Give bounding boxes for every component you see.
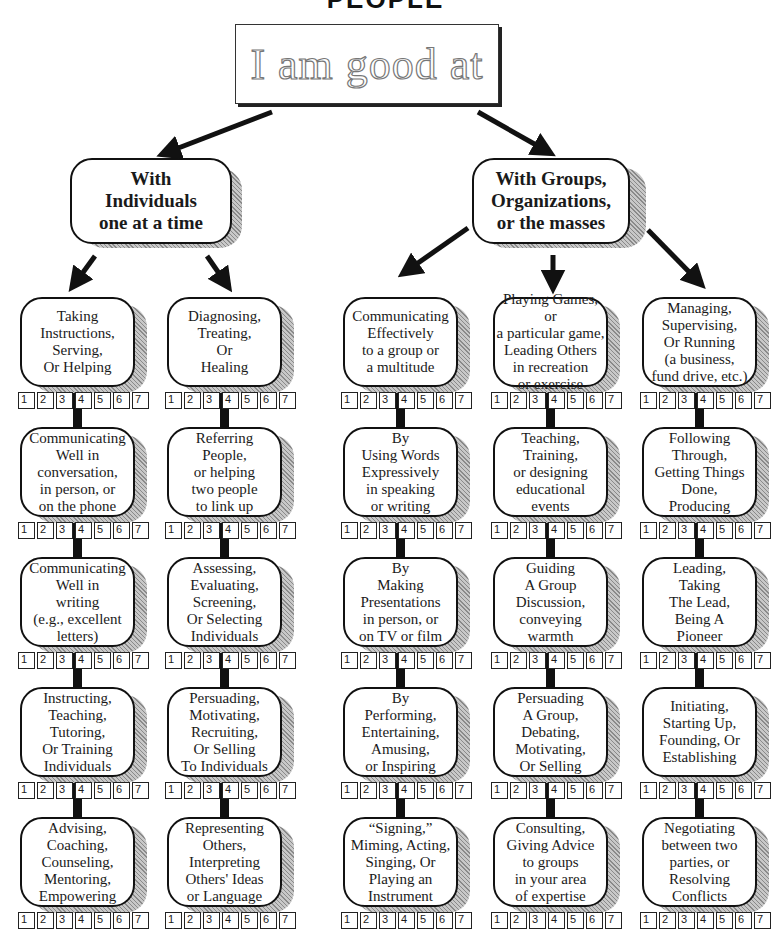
rating-option-6[interactable]: 6 [735,912,752,929]
rating-option-5[interactable]: 5 [417,522,434,539]
rating-option-1[interactable]: 1 [165,522,182,539]
rating-option-7[interactable]: 7 [754,392,771,409]
rating-option-1[interactable]: 1 [491,652,508,669]
rating-option-3[interactable]: 3 [56,652,73,669]
rating-option-3[interactable]: 3 [678,912,695,929]
rating-option-4[interactable]: 4 [222,782,239,799]
rating-option-5[interactable]: 5 [417,912,434,929]
rating-option-1[interactable]: 1 [640,522,657,539]
rating-option-2[interactable]: 2 [659,912,676,929]
rating-option-4[interactable]: 4 [222,652,239,669]
rating-option-2[interactable]: 2 [184,392,201,409]
rating-option-1[interactable]: 1 [165,392,182,409]
rating-option-2[interactable]: 2 [510,392,527,409]
rating-option-2[interactable]: 2 [360,522,377,539]
rating-option-3[interactable]: 3 [379,652,396,669]
rating-option-5[interactable]: 5 [417,392,434,409]
rating-option-7[interactable]: 7 [279,912,296,929]
rating-option-2[interactable]: 2 [37,522,54,539]
rating-option-3[interactable]: 3 [529,392,546,409]
rating-option-6[interactable]: 6 [735,782,752,799]
rating-option-7[interactable]: 7 [279,782,296,799]
rating-option-5[interactable]: 5 [94,522,111,539]
rating-option-7[interactable]: 7 [455,522,472,539]
rating-option-1[interactable]: 1 [165,782,182,799]
rating-option-2[interactable]: 2 [510,912,527,929]
rating-option-3[interactable]: 3 [379,392,396,409]
rating-option-1[interactable]: 1 [640,912,657,929]
rating-option-4[interactable]: 4 [398,522,415,539]
rating-option-2[interactable]: 2 [184,652,201,669]
rating-option-4[interactable]: 4 [548,392,565,409]
rating-option-6[interactable]: 6 [436,392,453,409]
rating-option-7[interactable]: 7 [605,392,622,409]
rating-option-4[interactable]: 4 [75,522,92,539]
rating-option-7[interactable]: 7 [132,392,149,409]
rating-option-6[interactable]: 6 [436,912,453,929]
rating-option-3[interactable]: 3 [379,912,396,929]
rating-option-5[interactable]: 5 [567,522,584,539]
rating-option-5[interactable]: 5 [567,912,584,929]
rating-option-1[interactable]: 1 [491,392,508,409]
rating-option-4[interactable]: 4 [697,912,714,929]
rating-option-2[interactable]: 2 [37,782,54,799]
rating-option-6[interactable]: 6 [113,392,130,409]
rating-option-1[interactable]: 1 [341,522,358,539]
rating-option-2[interactable]: 2 [37,652,54,669]
rating-option-4[interactable]: 4 [548,522,565,539]
rating-option-1[interactable]: 1 [341,652,358,669]
rating-option-5[interactable]: 5 [716,522,733,539]
rating-option-7[interactable]: 7 [754,912,771,929]
rating-option-2[interactable]: 2 [659,652,676,669]
rating-option-6[interactable]: 6 [260,392,277,409]
rating-option-4[interactable]: 4 [222,522,239,539]
rating-option-7[interactable]: 7 [455,392,472,409]
rating-option-4[interactable]: 4 [222,392,239,409]
rating-option-1[interactable]: 1 [491,522,508,539]
rating-option-6[interactable]: 6 [113,652,130,669]
rating-option-4[interactable]: 4 [697,392,714,409]
rating-option-3[interactable]: 3 [529,652,546,669]
rating-option-5[interactable]: 5 [716,652,733,669]
rating-option-6[interactable]: 6 [260,782,277,799]
rating-option-5[interactable]: 5 [94,652,111,669]
rating-option-5[interactable]: 5 [567,392,584,409]
rating-option-5[interactable]: 5 [241,522,258,539]
rating-option-7[interactable]: 7 [279,652,296,669]
rating-option-5[interactable]: 5 [417,652,434,669]
rating-option-6[interactable]: 6 [436,652,453,669]
rating-option-2[interactable]: 2 [659,392,676,409]
rating-option-7[interactable]: 7 [279,522,296,539]
rating-option-4[interactable]: 4 [75,912,92,929]
rating-option-3[interactable]: 3 [678,392,695,409]
rating-option-7[interactable]: 7 [605,652,622,669]
rating-option-7[interactable]: 7 [605,782,622,799]
rating-option-3[interactable]: 3 [56,912,73,929]
rating-option-3[interactable]: 3 [678,782,695,799]
rating-option-6[interactable]: 6 [436,522,453,539]
rating-option-5[interactable]: 5 [241,392,258,409]
rating-option-3[interactable]: 3 [379,782,396,799]
rating-option-6[interactable]: 6 [113,912,130,929]
rating-option-4[interactable]: 4 [398,652,415,669]
rating-option-2[interactable]: 2 [360,912,377,929]
rating-option-5[interactable]: 5 [94,912,111,929]
rating-option-3[interactable]: 3 [529,912,546,929]
rating-option-3[interactable]: 3 [203,652,220,669]
rating-option-7[interactable]: 7 [455,912,472,929]
rating-option-2[interactable]: 2 [184,782,201,799]
rating-option-5[interactable]: 5 [716,392,733,409]
rating-option-2[interactable]: 2 [360,652,377,669]
rating-option-2[interactable]: 2 [37,912,54,929]
rating-option-6[interactable]: 6 [586,912,603,929]
rating-option-2[interactable]: 2 [360,392,377,409]
rating-option-6[interactable]: 6 [260,522,277,539]
rating-option-3[interactable]: 3 [678,652,695,669]
rating-option-7[interactable]: 7 [754,522,771,539]
rating-option-3[interactable]: 3 [56,782,73,799]
rating-option-1[interactable]: 1 [18,782,35,799]
rating-option-6[interactable]: 6 [735,652,752,669]
rating-option-3[interactable]: 3 [529,782,546,799]
rating-option-3[interactable]: 3 [529,522,546,539]
rating-option-5[interactable]: 5 [417,782,434,799]
